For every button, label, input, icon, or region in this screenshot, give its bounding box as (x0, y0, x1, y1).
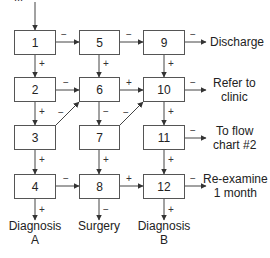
box-9: 9 (143, 30, 185, 55)
sign-9-out: − (190, 30, 196, 40)
box-2: 2 (14, 77, 56, 102)
box-12: 12 (143, 174, 185, 199)
sign-4-8: − (63, 174, 69, 184)
sign-12-out: − (190, 174, 196, 184)
box-6: 6 (79, 77, 120, 102)
box-1: 1 (14, 30, 56, 55)
top-text-partial: ... (14, 0, 23, 3)
box-7: 7 (79, 125, 120, 150)
outcome-diagnosis-a-line1: Diagnosis (5, 219, 65, 233)
sign-10-out: − (190, 78, 196, 88)
outcome-diagnosis-a: Diagnosis A (5, 219, 65, 247)
sign-8-12: + (126, 174, 132, 184)
sign-10-11: + (168, 107, 174, 117)
outcome-diagnosis-b-line2: B (134, 233, 194, 247)
sign-1-2: + (39, 59, 45, 69)
sign-11-out: − (190, 126, 196, 136)
outcome-refer-line1: Refer to (213, 76, 256, 90)
outcome-flowchart-line1: To flow (213, 124, 256, 138)
box-8: 8 (79, 174, 120, 199)
sign-2-6: − (63, 78, 69, 88)
sign-7-10: − (123, 108, 129, 118)
sign-6-10: + (126, 78, 132, 88)
sign-12-out: + (168, 205, 174, 215)
sign-6-7: − (103, 107, 109, 117)
outcome-reexamine-line2: 1 month (203, 186, 268, 200)
box-3: 3 (14, 125, 56, 150)
sign-11-12: + (168, 155, 174, 165)
outcome-diagnosis-a-line2: A (5, 233, 65, 247)
box-4: 4 (14, 174, 56, 199)
sign-3-6: − (58, 108, 64, 118)
box-5: 5 (79, 30, 120, 55)
sign-8-out: − (103, 205, 109, 215)
sign-3-4: + (39, 155, 45, 165)
outcome-reexamine-line1: Re-examine (203, 172, 268, 186)
outcome-flowchart: To flow chart #2 (213, 124, 256, 152)
sign-5-9: − (126, 30, 132, 40)
box-11: 11 (143, 125, 185, 150)
sign-7-8: + (103, 155, 109, 165)
outcome-flowchart-line2: chart #2 (213, 138, 256, 152)
sign-1-5: − (61, 30, 67, 40)
sign-5-6: + (103, 59, 109, 69)
outcome-discharge: Discharge (210, 35, 264, 49)
box-10: 10 (143, 77, 185, 102)
outcome-diagnosis-b-line1: Diagnosis (134, 219, 194, 233)
outcome-diagnosis-b: Diagnosis B (134, 219, 194, 247)
outcome-surgery: Surgery (74, 219, 124, 233)
outcome-refer-line2: clinic (213, 90, 256, 104)
sign-9-10: + (168, 59, 174, 69)
outcome-refer: Refer to clinic (213, 76, 256, 104)
sign-2-3: + (39, 107, 45, 117)
outcome-reexamine: Re-examine 1 month (203, 172, 268, 200)
sign-4-out: + (39, 205, 45, 215)
